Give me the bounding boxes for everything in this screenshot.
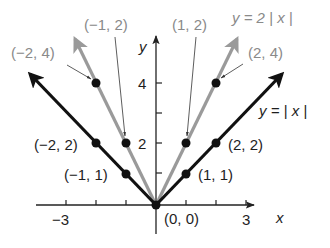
label-1-1: (1, 1) <box>198 166 233 183</box>
point-m1-1 <box>122 170 131 179</box>
point-2-4 <box>212 79 221 88</box>
label-2-2: (2, 2) <box>228 136 263 153</box>
point-2-2 <box>212 139 221 148</box>
equation-base-label: y = | x | <box>258 102 307 119</box>
point-0-0 <box>152 201 161 210</box>
point-m2-4 <box>92 79 101 88</box>
x-axis <box>36 200 254 205</box>
y-axis-label: y <box>138 38 148 55</box>
absolute-value-graph: y x 4 2 −3 3 y = 2 | x | y = | x | (−2, … <box>0 0 330 248</box>
x-axis-label: x <box>275 209 284 226</box>
label-m2-4: (−2, 4) <box>11 44 55 61</box>
point-1-2 <box>182 139 191 148</box>
label-m1-2: (−1, 2) <box>84 16 128 33</box>
label-m2-2: (−2, 2) <box>34 136 78 153</box>
label-1-2: (1, 2) <box>172 16 207 33</box>
point-m1-2 <box>122 139 131 148</box>
point-1-1 <box>182 170 191 179</box>
label-0-0: (0, 0) <box>164 210 199 227</box>
label-2-4: (2, 4) <box>248 44 283 61</box>
y-tick-2: 2 <box>138 135 146 152</box>
x-tick-3: 3 <box>242 211 250 228</box>
y-tick-4: 4 <box>138 75 146 92</box>
equation-steep-label: y = 2 | x | <box>231 9 293 26</box>
label-m1-1: (−1, 1) <box>64 166 108 183</box>
x-tick-neg3: −3 <box>52 211 69 228</box>
point-m2-2 <box>92 139 101 148</box>
